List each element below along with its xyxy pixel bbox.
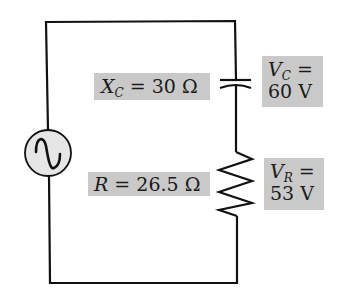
reactance-symbol: X [101, 75, 115, 97]
capacitor-voltage-label: VC = 60 V [262, 56, 323, 107]
resistor-voltage-label: VR = 53 V [264, 158, 324, 210]
vc-symbol: V [268, 58, 282, 80]
resistance-value: = 26.5 Ω [108, 173, 200, 195]
reactance-value: = 30 Ω [124, 75, 198, 97]
resistor-icon [219, 152, 252, 216]
vr-value: 53 V [270, 182, 324, 204]
vr-symbol: V [270, 160, 284, 182]
vc-equals: = [291, 58, 313, 80]
vr-equals: = [293, 160, 315, 182]
vc-value: 60 V [268, 80, 323, 102]
circuit-diagram [0, 0, 346, 298]
ac-source-icon [25, 130, 71, 176]
resistance-label: R = 26.5 Ω [88, 172, 210, 196]
resistance-symbol: R [94, 173, 108, 195]
reactance-subscript: C [115, 86, 124, 100]
capacitive-reactance-label: XC = 30 Ω [94, 73, 210, 100]
